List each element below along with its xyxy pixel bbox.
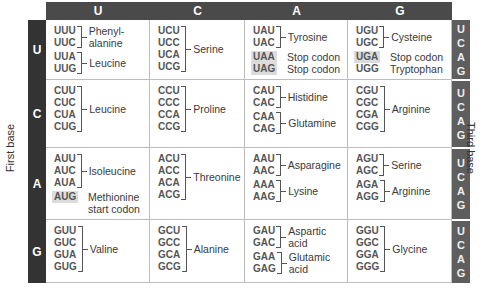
first-base-a: A <box>28 148 46 220</box>
codon: CAA <box>253 111 275 123</box>
third-base-g: G <box>457 198 466 212</box>
codon: UUG <box>54 63 76 75</box>
bracket-icon <box>380 86 385 132</box>
amino-acid-label: Glutamine <box>288 117 336 129</box>
codon: AGA <box>356 179 379 191</box>
codon: GCA <box>158 249 181 261</box>
codon-cell-ua: UAUUACTyrosineUAAStop codonUAGStop codon <box>245 20 348 80</box>
third-base-axis-label: Third base <box>465 122 477 174</box>
amino-acid-label: Arginine <box>392 103 431 115</box>
codon: UAU <box>253 25 275 37</box>
codon: GGU <box>356 225 379 237</box>
codon: GUU <box>54 225 77 237</box>
highlighted-codon: UAG <box>251 63 277 75</box>
amino-acid-label: Serine <box>193 43 223 55</box>
codon: GGG <box>356 261 379 273</box>
bracket-icon <box>276 86 281 108</box>
codon: AAG <box>253 191 275 203</box>
codon-group: UUAUUGLeucine <box>54 51 126 75</box>
third-base-bar-row-g: U C A G <box>452 221 470 283</box>
amino-acid-label: Tryptophan <box>390 63 443 75</box>
codon-group: GAUGACAsparticacid <box>253 225 326 249</box>
third-base-g: G <box>457 128 466 142</box>
bracket-icon <box>77 26 82 48</box>
codon: GUC <box>54 237 77 249</box>
bracket-icon <box>277 252 282 274</box>
bracket-icon <box>276 112 281 134</box>
codon: GUG <box>54 261 77 273</box>
codon-group: AGUAGCSerine <box>356 153 422 177</box>
bracket-icon <box>182 226 187 272</box>
amino-acid-label: Isoleucine <box>89 165 136 177</box>
amino-acid-label: Histidine <box>288 91 328 103</box>
codon-single: AUGMethioninestart codon <box>54 191 78 203</box>
first-base-u: U <box>28 20 46 80</box>
second-base-header-c: C <box>150 2 245 20</box>
third-base-bar-row-u: U C A G <box>452 20 470 79</box>
codon-group: UUUUUCPhenyl-alanine <box>54 25 124 49</box>
codon: UUU <box>54 25 76 37</box>
codon: GCU <box>158 225 181 237</box>
codon: UCG <box>158 61 180 73</box>
amino-acid-label: Phenyl-alanine <box>89 25 125 49</box>
third-base-u: U <box>457 86 465 100</box>
amino-acid-label: Proline <box>193 103 226 115</box>
amino-acid-label: Glycine <box>392 243 427 255</box>
codon: ACC <box>158 165 180 177</box>
highlighted-codon: UGA <box>354 51 380 63</box>
codon: GAA <box>253 251 276 263</box>
codon: UUA <box>54 51 76 63</box>
codon-group: CAUCACHistidine <box>253 85 328 109</box>
amino-acid-label: Asparticacid <box>288 225 326 249</box>
codon-cell-uc: UCUUCCUCAUCGSerine <box>150 20 245 80</box>
codon: CAU <box>253 85 275 97</box>
codon: GUA <box>54 249 77 261</box>
bracket-icon <box>77 154 82 188</box>
codon-cell-ug: UGUUGCCysteineUGAStop codonUGGTryptophan <box>348 20 452 80</box>
codon: UCC <box>158 37 180 49</box>
codon-group: GUUGUCGUAGUGValine <box>54 225 118 273</box>
third-base-u: U <box>457 224 465 238</box>
bracket-icon <box>181 26 186 72</box>
first-base-g: G <box>28 220 46 283</box>
bracket-icon <box>78 226 83 272</box>
highlighted-codon: AUG <box>52 191 78 203</box>
bracket-icon <box>181 86 186 132</box>
codon-cell-uu: UUUUUCPhenyl-alanineUUAUUGLeucine <box>46 20 150 80</box>
codon-group: AGAAGGArginine <box>356 179 430 203</box>
codon: GAG <box>253 263 276 275</box>
codon: ACA <box>158 177 180 189</box>
amino-acid-label: Stop codon <box>287 63 340 75</box>
codon: CGC <box>356 97 379 109</box>
bracket-icon <box>276 26 281 48</box>
codon-group: UGUUGCCysteine <box>356 25 432 49</box>
codon-table: UUUUUCPhenyl-alanineUUAUUGLeucineUCUUCCU… <box>46 20 452 283</box>
third-base-g: G <box>457 266 466 280</box>
codon-group: AAUAACAsparagine <box>253 153 341 177</box>
amino-acid-label: Serine <box>391 159 421 171</box>
codon-group: GCUGCCGCAGCGAlanine <box>158 225 229 273</box>
bracket-icon <box>276 154 281 176</box>
second-base-header-u: U <box>46 2 150 20</box>
third-base-u: U <box>457 22 465 36</box>
codon-cell-gg: GGUGGCGGAGGGGlycine <box>348 220 452 283</box>
bracket-icon <box>77 86 82 132</box>
codon: AGG <box>356 191 379 203</box>
codon: ACG <box>158 189 180 201</box>
codon-group: UAUUACTyrosine <box>253 25 327 49</box>
bracket-icon <box>379 26 384 48</box>
codon: CGA <box>356 109 379 121</box>
codon: GAU <box>253 225 275 237</box>
codon: UCU <box>158 25 180 37</box>
codon-cell-ac: ACUACCACAACGThreonine <box>150 148 245 220</box>
third-base-a: A <box>457 184 465 198</box>
third-base-c: C <box>457 238 465 252</box>
bracket-icon <box>380 180 385 202</box>
codon: CCG <box>158 121 180 133</box>
codon: AUU <box>54 153 76 165</box>
codon: ACU <box>158 153 180 165</box>
codon: UGG <box>356 63 379 75</box>
codon: CCU <box>158 85 180 97</box>
codon-cell-gc: GCUGCCGCAGCGAlanine <box>150 220 245 283</box>
codon-group: CUUCUCCUACUGLeucine <box>54 85 126 133</box>
